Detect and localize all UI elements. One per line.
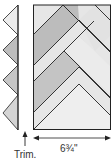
trim-strip xyxy=(3,5,18,130)
quilt-diagram xyxy=(0,0,111,166)
width-dimension-arrow xyxy=(33,136,111,141)
herringbone-panel xyxy=(33,5,111,130)
width-label: 6¾" xyxy=(60,144,77,154)
trim-arrow xyxy=(23,131,28,146)
trim-label: Trim. xyxy=(14,150,36,160)
